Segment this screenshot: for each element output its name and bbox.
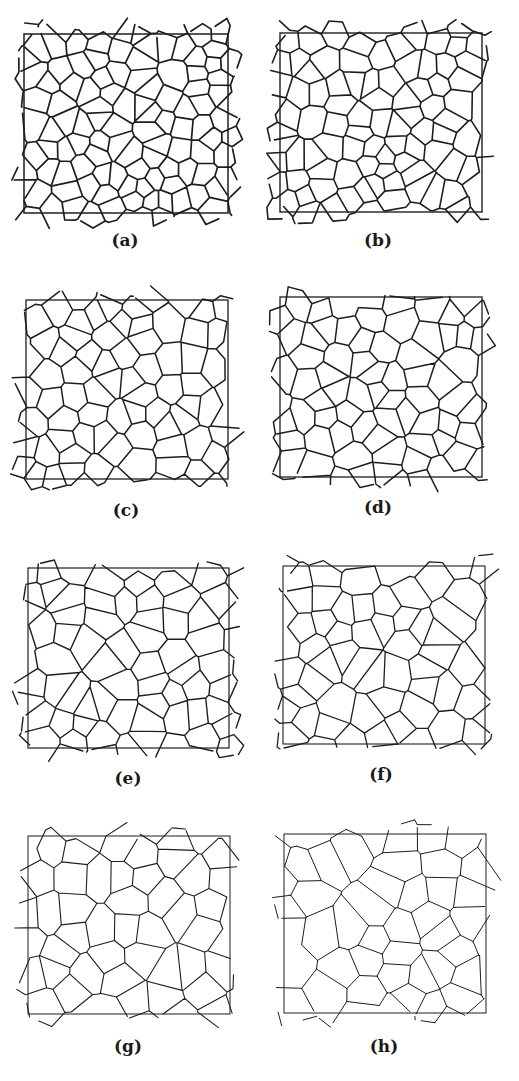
cellular-network-figure	[0, 0, 519, 1081]
panel-label-a: (a)	[111, 230, 138, 250]
panel-frame	[280, 297, 482, 477]
panel-h	[273, 820, 501, 1027]
panel-label-c: (c)	[113, 500, 139, 520]
panel-a	[12, 18, 243, 228]
panel-g	[15, 823, 239, 1028]
panel-label-h: (h)	[370, 1036, 398, 1056]
panel-b	[267, 20, 494, 224]
cell-boundaries	[270, 287, 496, 492]
cell-boundaries	[11, 286, 244, 490]
panel-c	[11, 286, 244, 490]
cell-boundaries	[12, 18, 243, 228]
cell-boundaries	[273, 820, 501, 1027]
panel-label-d: (d)	[364, 497, 392, 517]
panel-frame	[28, 836, 230, 1014]
panel-label-f: (f)	[369, 764, 392, 784]
cell-boundaries	[15, 823, 239, 1028]
panel-f	[275, 554, 499, 754]
panel-d	[270, 287, 496, 492]
cell-boundaries	[275, 554, 499, 754]
panel-e	[13, 560, 244, 761]
cell-boundaries	[267, 20, 494, 224]
cell-boundaries	[13, 560, 244, 761]
panel-label-e: (e)	[115, 768, 142, 788]
panel-label-b: (b)	[364, 230, 392, 250]
panel-label-g: (g)	[114, 1036, 142, 1056]
